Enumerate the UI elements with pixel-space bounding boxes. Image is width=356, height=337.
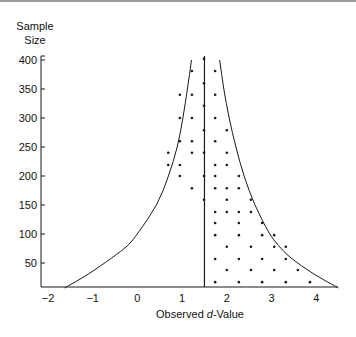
data-point <box>203 175 206 178</box>
data-point <box>250 211 253 214</box>
data-point <box>179 140 182 143</box>
y-axis-title-line2: Size <box>24 34 45 46</box>
data-point <box>261 222 264 225</box>
x-tick-label: −2 <box>42 292 55 304</box>
data-point <box>238 281 241 284</box>
x-axis-title: Observed d-Value <box>156 308 244 320</box>
data-point <box>179 175 182 178</box>
data-point <box>261 281 264 284</box>
x-axis-title-prefix: Observed <box>156 308 207 320</box>
data-point <box>214 211 217 214</box>
data-point <box>179 94 182 97</box>
data-point <box>214 94 217 97</box>
data-point <box>297 269 300 272</box>
data-point <box>191 70 194 73</box>
data-point <box>226 152 229 155</box>
data-point <box>250 198 253 201</box>
data-point <box>214 140 217 143</box>
data-point <box>226 129 229 132</box>
x-tick-label: 0 <box>134 292 140 304</box>
data-point <box>203 58 206 61</box>
y-tick-label: 250 <box>19 141 37 153</box>
data-point <box>226 245 229 248</box>
data-point <box>273 245 276 248</box>
data-point <box>214 164 217 167</box>
data-point <box>214 234 217 237</box>
y-axis-title-line1: Sample <box>16 20 53 32</box>
data-point <box>238 222 241 225</box>
data-point <box>238 175 241 178</box>
funnel-right-boundary <box>220 60 339 288</box>
data-point <box>285 245 288 248</box>
y-tick-label: 50 <box>25 257 37 269</box>
funnel-plot: Sample Size 50100150200250300350400−2−10… <box>0 0 356 337</box>
x-tick-label: 3 <box>268 292 274 304</box>
data-point <box>179 164 182 167</box>
data-point <box>203 198 206 201</box>
x-tick-label: −1 <box>86 292 99 304</box>
axes: 50100150200250300350400−2−101234 <box>19 54 338 304</box>
data-point <box>203 152 206 155</box>
data-point <box>226 164 229 167</box>
data-point <box>203 105 206 108</box>
data-point <box>238 258 241 261</box>
data-point <box>238 234 241 237</box>
data-point <box>214 175 217 178</box>
data-point <box>214 281 217 284</box>
data-point <box>261 234 264 237</box>
x-tick-label: 2 <box>224 292 230 304</box>
data-points <box>167 58 311 284</box>
y-tick-label: 150 <box>19 199 37 211</box>
data-point <box>191 117 194 120</box>
data-point <box>238 211 241 214</box>
x-axis-title-suffix: -Value <box>213 308 244 320</box>
y-tick-label: 400 <box>19 54 37 66</box>
data-point <box>191 94 194 97</box>
data-point <box>214 187 217 190</box>
data-point <box>238 187 241 190</box>
data-point <box>167 164 170 167</box>
data-point <box>285 258 288 261</box>
data-point <box>226 269 229 272</box>
data-point <box>273 269 276 272</box>
data-point <box>273 234 276 237</box>
data-point <box>226 198 229 201</box>
x-tick-label: 4 <box>313 292 319 304</box>
funnel-left-boundary <box>65 60 192 288</box>
data-point <box>309 281 312 284</box>
data-point <box>191 152 194 155</box>
data-point <box>167 152 170 155</box>
y-tick-label: 350 <box>19 83 37 95</box>
data-point <box>191 140 194 143</box>
data-point <box>226 211 229 214</box>
x-tick-label: 1 <box>179 292 185 304</box>
y-tick-label: 300 <box>19 112 37 124</box>
data-point <box>214 222 217 225</box>
funnel-curves <box>65 56 339 288</box>
data-point <box>226 187 229 190</box>
data-point <box>214 70 217 73</box>
data-point <box>250 245 253 248</box>
data-point <box>203 82 206 85</box>
data-point <box>179 117 182 120</box>
y-tick-label: 100 <box>19 228 37 240</box>
data-point <box>203 129 206 132</box>
data-point <box>214 258 217 261</box>
data-point <box>285 281 288 284</box>
data-point <box>261 258 264 261</box>
data-point <box>191 187 194 190</box>
data-point <box>214 117 217 120</box>
y-tick-label: 200 <box>19 170 37 182</box>
data-point <box>250 269 253 272</box>
